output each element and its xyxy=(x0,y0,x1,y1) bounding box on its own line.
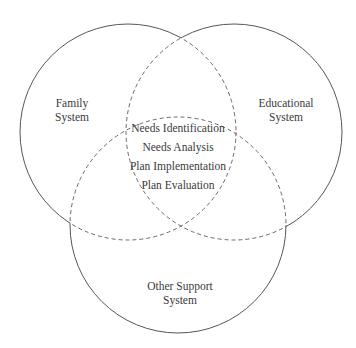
family-system-label-line1: Family xyxy=(55,96,89,110)
intersection-items: Needs Identification Needs Analysis Plan… xyxy=(130,119,226,195)
intersection-item-plan-evaluation: Plan Evaluation xyxy=(130,176,226,195)
family-system-label-line2: System xyxy=(55,110,89,124)
educational-system-label-line1: Educational xyxy=(259,96,314,110)
educational-system-label: Educational System xyxy=(259,96,314,124)
educational-system-label-line2: System xyxy=(259,110,314,124)
other-support-system-label: Other Support System xyxy=(147,279,212,307)
other-support-system-label-line2: System xyxy=(147,293,212,307)
intersection-item-plan-implementation: Plan Implementation xyxy=(130,157,226,176)
intersection-item-needs-identification: Needs Identification xyxy=(130,119,226,138)
family-system-label: Family System xyxy=(55,96,89,124)
intersection-item-needs-analysis: Needs Analysis xyxy=(130,138,226,157)
other-support-system-label-line1: Other Support xyxy=(147,279,212,293)
